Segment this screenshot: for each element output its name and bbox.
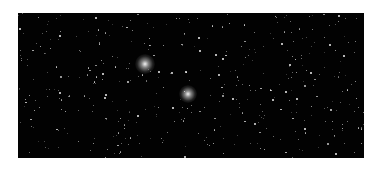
star (184, 34, 185, 35)
star (120, 151, 121, 152)
star (149, 45, 150, 46)
star (206, 137, 207, 138)
star (83, 19, 84, 20)
star (18, 15, 19, 16)
star (88, 31, 89, 32)
star (44, 141, 45, 142)
star (47, 24, 48, 25)
star (38, 141, 39, 142)
star (60, 15, 61, 16)
star (260, 88, 261, 89)
star (247, 99, 248, 100)
star (59, 35, 61, 37)
star (163, 45, 164, 46)
star (163, 140, 164, 141)
star (197, 18, 198, 19)
bright-star-glow (179, 85, 197, 103)
star (312, 29, 313, 30)
star (204, 107, 205, 108)
star (252, 60, 253, 61)
star (107, 149, 108, 150)
star (227, 14, 228, 15)
star (112, 101, 113, 102)
star (38, 17, 39, 18)
star (139, 143, 140, 144)
star (298, 139, 299, 140)
star (212, 25, 213, 26)
star (223, 153, 224, 154)
star (340, 61, 341, 62)
star (230, 114, 231, 115)
star (104, 97, 106, 99)
star (354, 152, 355, 153)
star (171, 72, 172, 73)
star (45, 147, 46, 148)
star (156, 116, 157, 117)
star (116, 135, 117, 136)
star (150, 138, 151, 139)
star (113, 136, 114, 137)
star (126, 100, 127, 101)
star (117, 57, 118, 58)
star (338, 15, 340, 17)
star (239, 103, 240, 104)
star (349, 104, 350, 105)
star (112, 24, 113, 25)
star (332, 101, 333, 102)
star (264, 115, 265, 116)
star (79, 77, 80, 78)
star (310, 72, 312, 74)
star (214, 129, 215, 130)
star (46, 31, 47, 32)
star (179, 112, 180, 113)
star (61, 99, 62, 100)
star (36, 43, 37, 44)
star (93, 143, 94, 144)
star (25, 99, 26, 100)
star (285, 152, 286, 153)
star (105, 94, 107, 96)
star (224, 84, 225, 85)
star (332, 129, 333, 130)
star (199, 50, 201, 52)
star (344, 36, 345, 37)
star (223, 138, 224, 139)
star (292, 157, 293, 158)
star (244, 24, 245, 25)
star (119, 153, 120, 154)
star (235, 70, 236, 71)
star (181, 119, 182, 120)
star (59, 98, 60, 99)
star (336, 110, 337, 111)
star (329, 25, 330, 26)
star (284, 17, 285, 18)
star (292, 72, 293, 73)
star (21, 58, 22, 59)
star (114, 153, 115, 154)
star (244, 41, 245, 42)
star (222, 26, 223, 27)
star (286, 74, 287, 75)
star (280, 139, 281, 140)
star (128, 144, 129, 145)
star (146, 81, 147, 82)
star (148, 49, 149, 50)
star (313, 85, 314, 86)
star (324, 67, 325, 68)
star (58, 130, 59, 131)
star (65, 111, 66, 112)
star (182, 45, 183, 46)
star (296, 112, 297, 113)
star (304, 128, 306, 130)
star (215, 54, 217, 56)
star (238, 80, 239, 81)
star (257, 143, 258, 144)
star (234, 144, 235, 145)
star (69, 95, 70, 96)
star (239, 107, 240, 108)
star (243, 64, 244, 65)
star (105, 32, 106, 33)
star (118, 132, 119, 133)
star (112, 56, 113, 57)
star (158, 71, 160, 73)
